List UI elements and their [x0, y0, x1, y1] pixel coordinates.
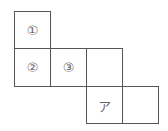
face-label: ア — [98, 96, 111, 115]
face-a: ア — [86, 86, 123, 124]
face-label: ① — [27, 23, 39, 38]
face-2: ② — [14, 48, 51, 87]
face-blank-2 — [122, 86, 159, 124]
face-label: ③ — [63, 60, 75, 75]
face-blank-1 — [86, 48, 123, 87]
face-3: ③ — [50, 48, 87, 87]
face-1: ① — [14, 11, 51, 49]
face-label: ② — [27, 60, 39, 75]
